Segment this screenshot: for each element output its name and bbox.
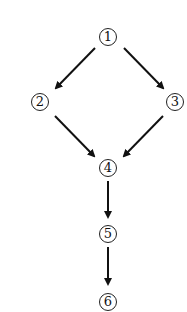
node-5: 5 — [99, 225, 117, 243]
node-5-label: 5 — [104, 226, 112, 241]
node-4: 4 — [99, 159, 117, 177]
edge-1-3 — [124, 48, 163, 88]
edge-3-4 — [124, 116, 163, 156]
node-3: 3 — [166, 93, 184, 111]
node-3-label: 3 — [171, 94, 179, 109]
node-1-label: 1 — [104, 29, 112, 44]
flow-diagram: 1 2 3 4 5 6 — [0, 0, 187, 312]
node-6-label: 6 — [104, 294, 112, 309]
node-2-label: 2 — [36, 94, 44, 109]
edge-2-4 — [55, 116, 94, 156]
edges-layer — [0, 0, 187, 312]
node-6: 6 — [99, 293, 117, 311]
node-4-label: 4 — [104, 160, 112, 175]
node-1: 1 — [99, 28, 117, 46]
node-2: 2 — [31, 93, 49, 111]
edge-1-2 — [56, 48, 95, 88]
